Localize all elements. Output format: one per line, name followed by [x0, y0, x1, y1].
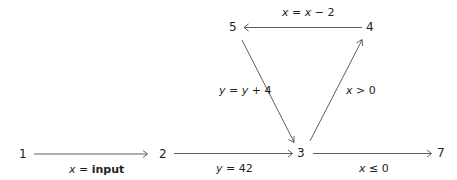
- edge-1-2-label: x = input: [68, 163, 124, 176]
- edge-5-3-label: y = y + 4: [218, 84, 271, 97]
- node-7: 7: [437, 146, 445, 160]
- edge-1-2: [34, 151, 148, 158]
- edge-3-7-label: x ≤ 0: [358, 162, 389, 175]
- node-4: 4: [366, 20, 374, 34]
- control-flow-diagram: 1 2 3 4 5 7 x = input y = 42 x ≤ 0 x > 0…: [0, 0, 457, 180]
- edge-2-3: [174, 150, 293, 157]
- edge-3-4-label: x > 0: [345, 84, 376, 97]
- node-1: 1: [19, 147, 27, 161]
- edge-2-3-label: y = 42: [215, 162, 253, 175]
- edge-3-7: [313, 150, 432, 157]
- edge-4-5: [244, 24, 362, 31]
- node-5: 5: [229, 20, 237, 34]
- edge-4-5-label: x = x − 2: [281, 6, 334, 19]
- node-3: 3: [297, 146, 305, 160]
- node-2: 2: [159, 147, 167, 161]
